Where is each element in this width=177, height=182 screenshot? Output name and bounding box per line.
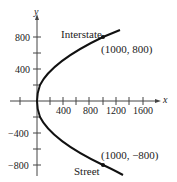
point-top-label: (1000, 800) bbox=[101, 44, 152, 54]
y-tick-neg800: −800 bbox=[8, 161, 29, 171]
street-label: Street bbox=[74, 166, 100, 176]
point-bottom bbox=[101, 163, 105, 167]
y-tick-neg400: −400 bbox=[8, 129, 29, 139]
x-axis-label: x bbox=[163, 95, 167, 105]
point-bottom-label: (1000, −800) bbox=[101, 150, 159, 160]
y-axis-label: y bbox=[34, 7, 38, 17]
interstate-label: Interstate bbox=[61, 29, 102, 39]
x-axis-arrow-icon bbox=[155, 99, 161, 103]
x-tick-1600: 1600 bbox=[133, 106, 153, 116]
x-tick-400: 400 bbox=[56, 106, 71, 116]
y-tick-400: 400 bbox=[15, 65, 30, 75]
y-tick-800: 800 bbox=[15, 33, 30, 43]
x-tick-800: 800 bbox=[83, 106, 98, 116]
x-tick-1200: 1200 bbox=[106, 106, 126, 116]
